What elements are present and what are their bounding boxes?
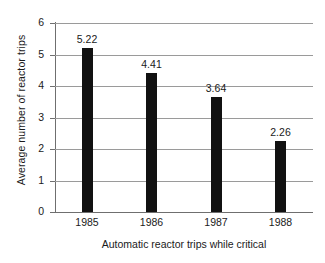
bar[interactable] [82, 48, 93, 212]
y-axis-tick-label-text: 0 [38, 205, 44, 218]
y-axis-tick-label-text: 6 [38, 16, 44, 29]
plot-area [55, 23, 313, 212]
gridline [55, 212, 313, 213]
x-axis-tick-label: 1987 [191, 216, 241, 229]
bar-value-label: 5.22 [67, 33, 107, 46]
gridline [55, 118, 313, 119]
bar[interactable] [275, 141, 286, 212]
gridline [55, 55, 313, 56]
y-axis-tick-label-text: 2 [38, 142, 44, 155]
y-axis-title: Average number of reactor trips [14, 10, 28, 210]
x-axis-tick-label: 1988 [256, 216, 306, 229]
x-axis-tick-label: 1985 [62, 216, 112, 229]
y-axis-tick-label-text: 1 [38, 174, 44, 187]
x-axis-tick-label: 1986 [127, 216, 177, 229]
y-axis-tick-label-text: 3 [38, 111, 44, 124]
bar[interactable] [146, 73, 157, 212]
bar-value-label: 4.41 [132, 58, 172, 71]
bar-value-label: 3.64 [196, 82, 236, 95]
gridline [55, 23, 313, 24]
gridline [55, 86, 313, 87]
y-axis-tick-label-text: 4 [38, 79, 44, 92]
bar-value-label: 2.26 [261, 126, 301, 139]
y-axis-tick-label-text: 5 [38, 48, 44, 61]
x-axis-title: Automatic reactor trips while critical [55, 237, 313, 251]
bar[interactable] [211, 97, 222, 212]
bar-chart-figure: Average number of reactor trips 0123456 … [0, 0, 325, 263]
